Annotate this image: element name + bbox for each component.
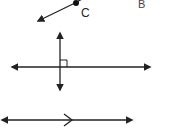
point-c-dot: [73, 0, 79, 6]
ray-from-c: [38, 0, 82, 21]
label-c: C: [81, 6, 90, 20]
right-angle-marker: [60, 60, 67, 67]
parallel-line: [2, 114, 132, 126]
diagram-svg: C B: [0, 0, 186, 132]
geometry-diagram: C B: [0, 0, 186, 132]
label-b: B: [138, 0, 145, 10]
perpendicular-lines: [12, 33, 150, 90]
